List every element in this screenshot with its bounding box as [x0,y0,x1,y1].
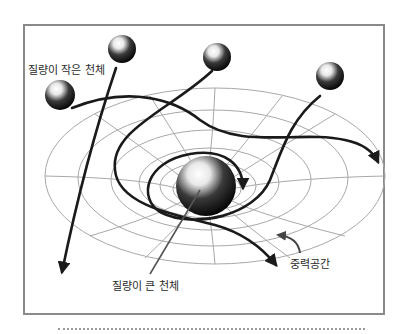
gravity-space-pointer-arrow [278,235,300,253]
spacetime-curvature-diagram: 질량이 작은 천체 질량이 큰 천체 중력공간 [0,0,403,334]
small-mass-body-4 [316,62,344,90]
small-mass-body-3 [203,43,231,71]
small-mass-body-2 [108,35,136,63]
trajectory-4 [148,96,320,220]
label-gravity-space: 중력공간 [290,258,330,271]
label-small-mass-body: 질량이 작은 천체 [28,63,105,77]
dotted-divider [58,328,365,330]
small-mass-body-1 [45,80,75,110]
label-large-mass-body: 질량이 큰 천체 [112,279,179,293]
large-mass-body [176,156,236,216]
